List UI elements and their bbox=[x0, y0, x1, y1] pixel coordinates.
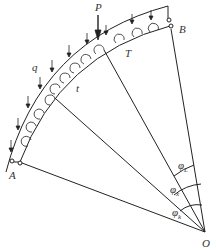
label-phi-x: φx bbox=[170, 184, 179, 198]
label-t: t bbox=[76, 83, 79, 94]
label-A: A bbox=[9, 170, 16, 181]
label-phi-L: φL bbox=[178, 160, 188, 174]
diagram-drawing bbox=[0, 0, 216, 251]
label-q: q bbox=[32, 62, 38, 73]
load-arrows bbox=[9, 10, 153, 152]
label-P: P bbox=[95, 2, 102, 13]
distributed-load-line bbox=[6, 6, 168, 172]
label-phi-k: φk bbox=[172, 207, 181, 221]
curved-beam-diagram: P q T t A B O φL φx φk bbox=[0, 0, 216, 251]
label-O: O bbox=[202, 238, 210, 249]
label-B: B bbox=[179, 24, 186, 35]
label-T: T bbox=[125, 48, 131, 59]
